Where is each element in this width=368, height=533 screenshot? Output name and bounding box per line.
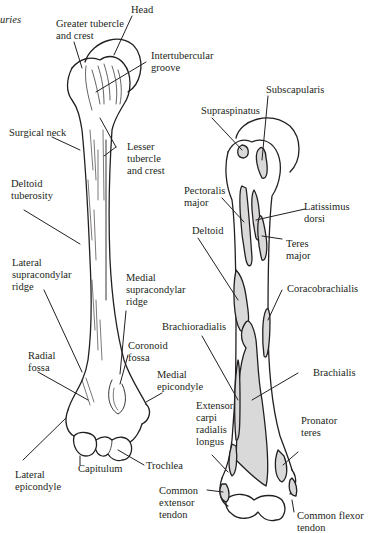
label-surgical-neck: Surgical neck [9, 127, 66, 139]
cropped-caption: uries [0, 14, 21, 26]
label-capitulum: Capitulum [78, 463, 122, 475]
pectoralis-attachment [240, 186, 252, 266]
label-pronator-teres: Pronator teres [301, 415, 337, 439]
label-lesser-tubercle: Lesser tubercle and crest [127, 141, 165, 177]
label-common-extensor-tendon: Common extensor tendon [159, 485, 198, 521]
label-medial-supracondylar-ridge: Medial supracondylar ridge [126, 272, 185, 308]
label-coracobrachialis: Coracobrachialis [287, 283, 358, 295]
label-brachioradialis: Brachioradialis [162, 321, 226, 333]
pronator-teres-attachment [275, 450, 286, 482]
label-deltoid: Deltoid [192, 225, 224, 237]
label-greater-tubercle: Greater tubercle and crest [56, 18, 124, 42]
label-teres-major: Teres major [286, 238, 311, 262]
label-supraspinatus: Supraspinatus [201, 105, 260, 117]
label-medial-epicondyle: Medial epicondyle [157, 369, 203, 393]
label-intertubercular-groove: Intertubercular groove [151, 50, 213, 74]
label-head: Head [131, 4, 153, 16]
label-lateral-supracondylar-ridge: Lateral supracondylar ridge [12, 257, 71, 293]
label-latissimus-dorsi: Latissimus dorsi [304, 201, 350, 225]
ecrl-attachment [229, 444, 237, 476]
label-common-flexor-tendon: Common flexor tendon [297, 510, 364, 533]
label-extensor-carpi-radialis-longus: Extensor carpi radialis longus [196, 400, 233, 448]
label-coronoid-fossa: Coronoid fossa [128, 340, 168, 364]
label-lateral-epicondyle: Lateral epicondyle [15, 469, 61, 493]
label-radial-fossa: Radial fossa [28, 350, 55, 374]
label-brachialis: Brachialis [313, 367, 356, 379]
label-subscapularis: Subscapularis [266, 84, 324, 96]
label-deltoid-tuberosity: Deltoid tuberosity [11, 178, 53, 202]
left-humerus-bone [66, 39, 149, 460]
subscapularis-attachment [256, 147, 267, 178]
teres-major-attachment [258, 216, 267, 260]
label-trochlea: Trochlea [146, 460, 183, 472]
label-pectoralis-major: Pectoralis major [184, 185, 225, 209]
